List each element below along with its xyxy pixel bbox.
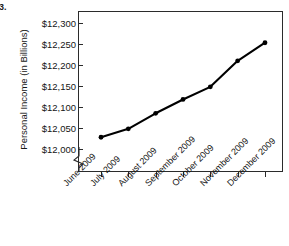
y-axis-tick-mark [78,65,83,66]
y-axis-tick-label: $12,100 [24,102,76,113]
y-axis-tick-mark [78,128,83,129]
x-axis-tick-mark [265,172,266,177]
y-axis-tick-mark [78,23,83,24]
y-axis-tick-mark [78,86,83,87]
y-axis-tick-label: $12,200 [24,60,76,71]
y-axis-tick-mark [78,44,83,45]
chart-figure: 3. Personal Income (in Billions) $12,000… [0,0,289,246]
figure-number-label: 3. [0,2,7,12]
y-axis-tick-label: $12,000 [24,144,76,155]
y-axis-tick-labels: $12,000$12,050$12,100$12,150$12,200$12,2… [22,0,76,246]
y-axis-tick-label: $12,300 [24,18,76,29]
y-axis-tick-label: $12,150 [24,81,76,92]
y-axis-break-icon [72,147,86,171]
y-axis-tick-label: $12,250 [24,39,76,50]
y-axis-tick-mark [78,107,83,108]
y-axis-tick-label: $12,050 [24,123,76,134]
